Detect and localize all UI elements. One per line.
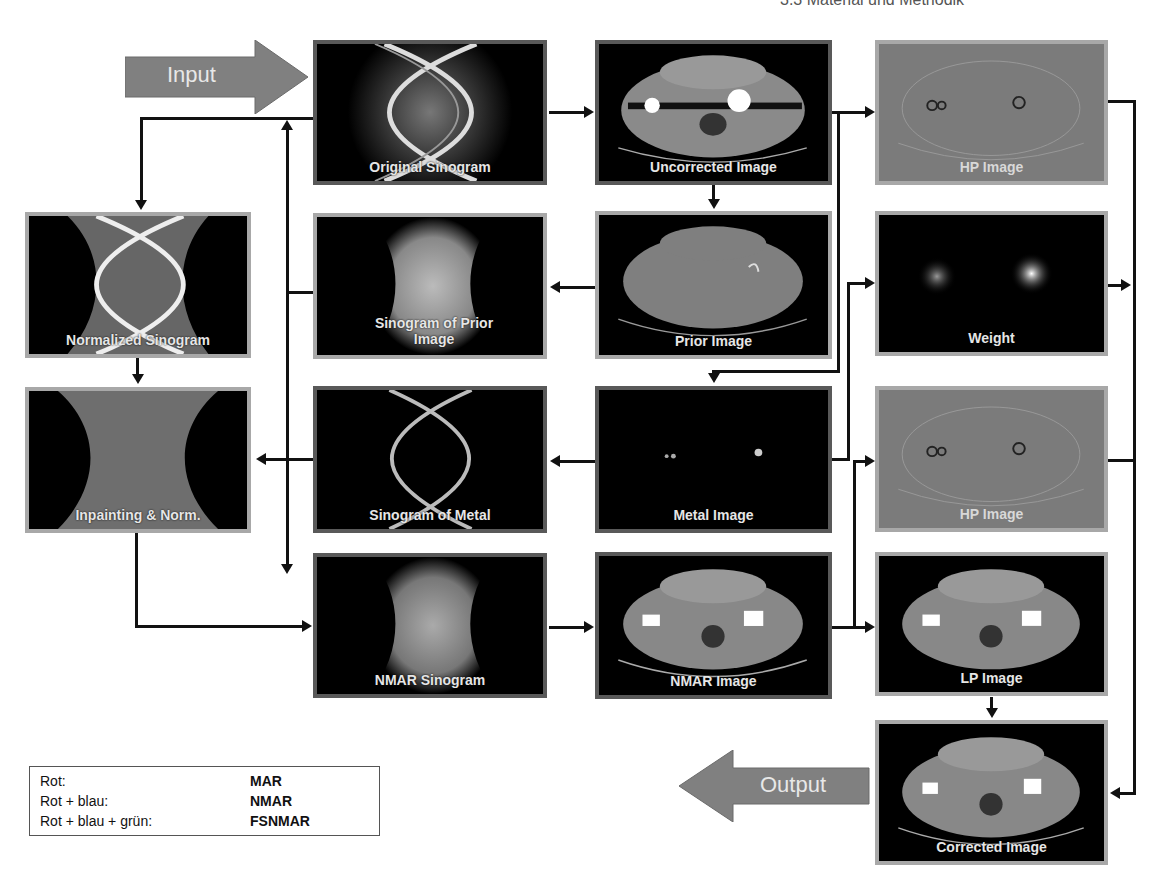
connector	[712, 370, 840, 373]
input-arrow: Input	[125, 40, 310, 114]
connector	[140, 117, 143, 200]
panel-inpainting-norm: Inpainting & Norm.	[25, 387, 251, 533]
legend: Rot: MAR Rot + blau: NMAR Rot + blau + g…	[29, 766, 380, 836]
panel-label: LP Image	[879, 670, 1104, 686]
panel-label: NMAR Image	[599, 673, 828, 689]
connector	[135, 533, 138, 628]
connector	[265, 458, 313, 461]
arrowhead-left-icon	[256, 453, 266, 465]
page-header: 3.3 Material und Methodik	[780, 0, 1164, 9]
connector	[136, 358, 139, 374]
panel-metal-image: Metal Image	[595, 386, 832, 533]
connector	[549, 626, 585, 629]
panel-weight: Weight	[875, 211, 1108, 356]
connector	[847, 282, 865, 285]
panel-label: HP Image	[879, 506, 1104, 522]
connector	[712, 185, 715, 199]
connector	[560, 286, 595, 289]
panel-nmar-image: NMAR Image	[595, 552, 832, 699]
panel-label: Metal Image	[599, 507, 828, 523]
panel-uncorrected-image: Uncorrected Image	[595, 40, 832, 185]
connector	[853, 460, 856, 629]
panel-label: Sinogram of Prior Image	[359, 315, 509, 347]
arrowhead-right-icon	[1121, 279, 1131, 291]
legend-key: Rot + blau + grün:	[40, 811, 250, 831]
panel-label: Corrected Image	[879, 839, 1104, 855]
arrowhead-down-icon	[281, 564, 293, 574]
connector	[847, 282, 850, 461]
legend-value: MAR	[250, 771, 282, 791]
connector	[837, 111, 840, 372]
panel-label: Original Sinogram	[317, 159, 543, 175]
connector	[832, 626, 865, 629]
legend-value: NMAR	[250, 791, 292, 811]
panel-nmar-sinogram: NMAR Sinogram	[313, 553, 547, 698]
panel-label: Uncorrected Image	[599, 159, 828, 175]
panel-hp-image-1: HP Image	[875, 40, 1108, 185]
arrowhead-down-icon	[132, 374, 144, 384]
panel-sinogram-prior: Sinogram of Prior Image	[313, 213, 547, 359]
connector	[1108, 459, 1135, 462]
arrowhead-left-icon	[1110, 787, 1120, 799]
arrowhead-right-icon	[302, 620, 312, 632]
output-label: Output	[760, 772, 826, 798]
panel-lp-image: LP Image	[875, 552, 1108, 696]
arrowhead-down-icon	[986, 708, 998, 718]
connector	[549, 111, 585, 114]
panel-prior-image: Prior Image	[595, 211, 832, 359]
panel-label: Weight	[879, 330, 1104, 346]
arrowhead-right-icon	[865, 621, 875, 633]
legend-key: Rot:	[40, 771, 250, 791]
legend-row: Rot: MAR	[40, 771, 369, 791]
panel-corrected-image: Corrected Image	[875, 720, 1108, 865]
connector	[135, 625, 303, 628]
panel-label: Inpainting & Norm.	[29, 507, 247, 523]
connector	[286, 291, 313, 294]
legend-row: Rot + blau: NMAR	[40, 791, 369, 811]
legend-row: Rot + blau + grün: FSNMAR	[40, 811, 369, 831]
arrowhead-right-icon	[584, 106, 594, 118]
connector	[853, 460, 865, 463]
input-label: Input	[167, 62, 216, 88]
connector	[1108, 284, 1121, 287]
panel-sinogram-metal: Sinogram of Metal	[313, 386, 547, 533]
arrowhead-left-icon	[550, 455, 560, 467]
panel-label: Normalized Sinogram	[29, 332, 247, 348]
arrowhead-left-icon	[550, 281, 560, 293]
arrowhead-right-icon	[584, 621, 594, 633]
arrowhead-right-icon	[865, 455, 875, 467]
legend-value: FSNMAR	[250, 811, 310, 831]
panel-normalized-sinogram: Normalized Sinogram	[25, 212, 251, 358]
panel-label: Prior Image	[599, 333, 828, 349]
output-arrow: Output	[678, 750, 870, 822]
panel-original-sinogram: Original Sinogram	[313, 40, 547, 185]
connector	[1133, 100, 1136, 795]
arrowhead-right-icon	[865, 106, 875, 118]
arrowhead-down-icon	[135, 200, 147, 210]
panel-hp-image-2: HP Image	[875, 386, 1108, 532]
panel-label: HP Image	[879, 159, 1104, 175]
panel-label: Sinogram of Metal	[317, 507, 543, 523]
panel-label: NMAR Sinogram	[317, 672, 543, 688]
connector	[560, 460, 595, 463]
legend-key: Rot + blau:	[40, 791, 250, 811]
connector	[1120, 792, 1136, 795]
arrowhead-down-icon	[708, 373, 720, 383]
arrow-right-icon	[125, 40, 310, 114]
arrowhead-down-icon	[708, 199, 720, 209]
connector	[286, 128, 289, 568]
arrowhead-right-icon	[865, 277, 875, 289]
arrowhead-up-icon	[281, 120, 293, 130]
connector	[1108, 100, 1135, 103]
